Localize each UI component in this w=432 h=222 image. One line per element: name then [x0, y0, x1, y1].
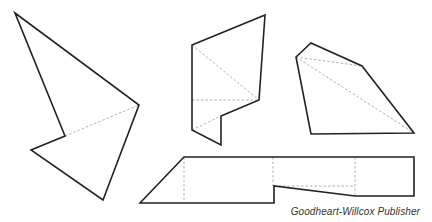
- shape-left: [15, 13, 139, 200]
- shape-outline: [15, 13, 139, 200]
- fold-line: [192, 45, 259, 100]
- shape-bottom: [140, 157, 414, 203]
- fold-line: [192, 116, 221, 130]
- shape-middle: [192, 15, 265, 145]
- shape-outline: [192, 15, 265, 145]
- fold-line: [65, 105, 139, 136]
- shape-right: [296, 43, 414, 134]
- shape-outline: [140, 157, 414, 203]
- shape-outline: [296, 43, 414, 134]
- fold-line: [296, 57, 414, 133]
- publisher-credit: Goodheart-Willcox Publisher: [291, 206, 420, 217]
- pattern-diagram: [0, 0, 432, 222]
